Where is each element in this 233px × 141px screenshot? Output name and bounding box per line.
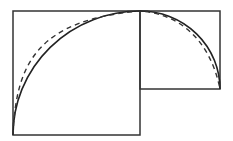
dashed-curve [13, 11, 220, 135]
diagram-canvas [0, 0, 233, 141]
large-square [13, 11, 140, 135]
small-square [140, 11, 220, 89]
solid-arc-curve [13, 11, 220, 135]
